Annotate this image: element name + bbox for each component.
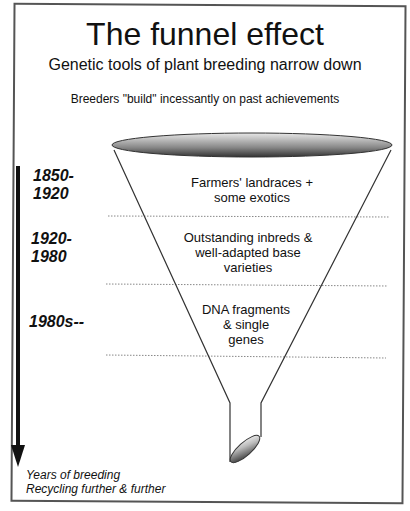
time-arrow-shaft	[16, 166, 20, 448]
era-3-description: DNA fragments & single genes	[146, 302, 346, 347]
time-arrow-head	[11, 445, 25, 467]
separator-1	[108, 216, 390, 217]
era-1-period: 1850- 1920	[33, 167, 74, 203]
separator-3	[106, 355, 386, 358]
era-3-period: 1980s--	[29, 313, 84, 331]
era-2-period: 1920- 1980	[31, 230, 72, 266]
separator-2	[106, 284, 388, 286]
era-2-description: Outstanding inbreds & well-adapted base …	[148, 230, 348, 275]
funnel-top-opening	[112, 133, 392, 157]
time-axis-label: Years of breeding Recycling further & fu…	[26, 468, 165, 496]
era-1-description: Farmers' landraces + some exotics	[152, 175, 352, 205]
funnel-spout-opening	[227, 431, 264, 466]
